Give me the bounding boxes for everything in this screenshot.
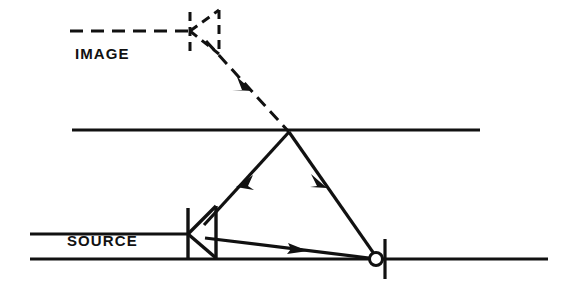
figure-root: IMAGE SOURCE — [0, 0, 577, 292]
source-label: SOURCE — [67, 232, 138, 249]
ray-path-diagram: IMAGE SOURCE — [0, 0, 577, 292]
reflected-ray — [289, 132, 377, 258]
reflection-point-marker — [370, 239, 386, 279]
incident-ray — [204, 132, 289, 225]
image-transducer-dashed — [190, 10, 219, 54]
source-transducer-upper-flare — [188, 206, 216, 234]
virtual-ray-arrowhead — [232, 77, 253, 91]
image-transducer-upper-flare — [190, 10, 219, 31]
image-transducer-lower-flare — [190, 31, 219, 54]
image-label: IMAGE — [75, 45, 130, 62]
reflection-point-circle — [370, 253, 383, 266]
